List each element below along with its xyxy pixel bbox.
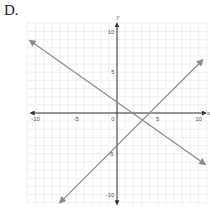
- x-tick-10: 10: [195, 116, 202, 122]
- axes: [31, 23, 206, 204]
- line-increasing: [60, 60, 203, 203]
- y-axis-label: y: [115, 13, 120, 21]
- y-tick-neg10: -10: [106, 192, 115, 198]
- x-axis-label: x: [206, 109, 210, 117]
- y-tick-10: 10: [108, 29, 115, 35]
- x-tick-neg5: -5: [74, 116, 80, 122]
- coordinate-plane: -10-50510105-5-10xy: [0, 0, 210, 213]
- x-tick-neg10: -10: [31, 116, 40, 122]
